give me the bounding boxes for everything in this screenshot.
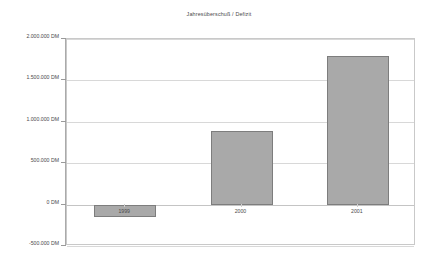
plot-area — [66, 38, 415, 245]
bar-2001[interactable] — [327, 56, 389, 204]
y-axis-tick — [61, 38, 66, 39]
x-axis-label-2001: 2001 — [327, 209, 387, 214]
y-axis-label-wrap: 0 DM — [0, 200, 59, 208]
y-axis-tick — [61, 204, 66, 205]
y-axis-label-wrap: 1.000.000 DM — [0, 117, 59, 125]
y-axis-label-wrap: 1.500.000 DM — [0, 75, 59, 83]
y-axis-tick — [61, 121, 66, 122]
y-axis-label-wrap: 2.000.000 DM — [0, 34, 59, 42]
chart-title: Jahresüberschuß / Defizit — [0, 11, 438, 17]
x-axis-label-1999: 1999 — [94, 209, 154, 214]
y-axis-tick-label: 0 DM — [1, 200, 59, 205]
y-axis-label-wrap: -500.000 DM — [0, 241, 59, 249]
x-axis-tick — [241, 204, 242, 207]
y-axis-tick-label: 1.500.000 DM — [1, 75, 59, 80]
x-axis-tick — [124, 204, 125, 207]
y-axis-tick — [61, 162, 66, 163]
y-axis-tick-label: 1.000.000 DM — [1, 117, 59, 122]
y-axis-tick-label: -500.000 DM — [1, 241, 59, 246]
y-axis-tick — [61, 245, 66, 246]
bar-2000[interactable] — [211, 131, 273, 205]
y-axis-tick — [61, 79, 66, 80]
y-axis-tick-label: 2.000.000 DM — [1, 34, 59, 39]
x-axis-label-2000: 2000 — [211, 209, 271, 214]
y-axis-label-wrap: 500.000 DM — [0, 158, 59, 166]
gridline — [67, 39, 414, 40]
x-axis-tick — [357, 204, 358, 207]
gridline — [67, 246, 414, 247]
y-axis-tick-label: 500.000 DM — [1, 158, 59, 163]
chart-container: Jahresüberschuß / Defizit 2.000.000 DM1.… — [0, 0, 438, 263]
